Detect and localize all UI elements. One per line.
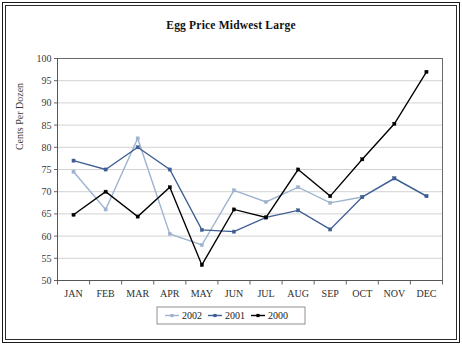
data-point-marker [200, 243, 203, 246]
data-point-marker [297, 186, 300, 189]
y-tick-label: 90 [42, 97, 52, 108]
data-point-marker [297, 168, 300, 171]
x-tick-label: APR [160, 288, 180, 299]
data-point-marker [104, 168, 107, 171]
data-point-marker [232, 189, 235, 192]
x-tick-label: NOV [384, 288, 406, 299]
series-line-2001 [74, 147, 427, 231]
y-tick-label: 65 [42, 208, 52, 219]
x-tick-label: JUL [257, 288, 274, 299]
legend-item-2000[interactable]: 2000 [268, 310, 288, 321]
y-tick-label: 60 [42, 231, 52, 242]
data-point-marker [168, 186, 171, 189]
data-point-marker [329, 201, 332, 204]
y-tick-label: 55 [42, 253, 52, 264]
data-point-marker [168, 168, 171, 171]
y-tick-label: 100 [37, 53, 52, 64]
data-point-marker [393, 122, 396, 125]
data-point-marker [297, 209, 300, 212]
y-tick-label: 70 [42, 186, 52, 197]
data-point-marker [264, 200, 267, 203]
data-point-marker [200, 263, 203, 266]
data-point-marker [168, 232, 171, 235]
data-point-marker [425, 70, 428, 73]
data-point-marker [136, 146, 139, 149]
y-tick-label: 85 [42, 120, 52, 131]
data-point-marker [361, 158, 364, 161]
data-point-marker [425, 195, 428, 198]
data-point-marker [104, 208, 107, 211]
data-point-marker [72, 159, 75, 162]
data-point-marker [232, 208, 235, 211]
data-point-marker [136, 137, 139, 140]
x-axis-ticks: JANFEBMARAPRMAYJUNJULAUGSEPOCTNOVDEC [58, 281, 443, 299]
x-tick-label: AUG [287, 288, 309, 299]
y-axis-ticks: 50556065707580859095100 [37, 53, 58, 286]
x-tick-label: DEC [416, 288, 436, 299]
data-point-marker [264, 216, 267, 219]
x-tick-label: JAN [64, 288, 82, 299]
x-tick-label: OCT [352, 288, 372, 299]
legend-marker-2002 [170, 314, 173, 317]
data-point-marker [136, 215, 139, 218]
y-tick-label: 75 [42, 164, 52, 175]
x-tick-label: MAR [126, 288, 149, 299]
legend-item-2002[interactable]: 2002 [182, 310, 202, 321]
legend-marker-2001 [213, 314, 216, 317]
data-point-marker [72, 213, 75, 216]
y-tick-label: 50 [42, 275, 52, 286]
data-point-marker [232, 230, 235, 233]
data-point-marker [329, 195, 332, 198]
line-chart-plot: 50556065707580859095100 JANFEBMARAPRMAYJ… [0, 0, 462, 345]
data-point-marker [329, 228, 332, 231]
y-tick-label: 95 [42, 75, 52, 86]
data-point-marker [393, 177, 396, 180]
data-point-marker [361, 195, 364, 198]
data-point-marker [72, 170, 75, 173]
data-point-marker [104, 190, 107, 193]
data-series [72, 70, 428, 266]
legend-marker-2000 [256, 314, 259, 317]
legend-item-2001[interactable]: 2001 [225, 310, 245, 321]
x-tick-label: FEB [96, 288, 115, 299]
x-tick-label: JUN [225, 288, 243, 299]
x-tick-label: MAY [191, 288, 213, 299]
chart-legend[interactable]: 200220012000 [157, 307, 305, 324]
y-tick-label: 80 [42, 142, 52, 153]
chart-page: Egg Price Midwest Large Cents Per Dozen … [0, 0, 462, 345]
data-point-marker [200, 228, 203, 231]
x-tick-label: SEP [322, 288, 340, 299]
gridlines [58, 59, 443, 259]
